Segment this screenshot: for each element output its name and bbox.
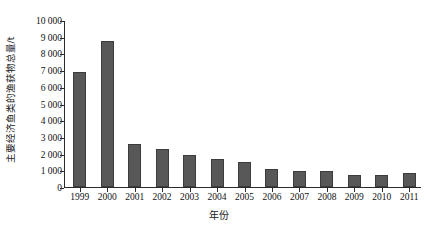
x-axis-tick-label: 2000 bbox=[98, 192, 117, 202]
plot-area bbox=[64, 21, 421, 188]
y-axis-tick-label: 4 000 bbox=[41, 116, 62, 126]
y-axis-tick-label: 3 000 bbox=[41, 133, 62, 143]
y-axis-tick-label: 7 000 bbox=[41, 66, 62, 76]
x-axis-tick-label: 2007 bbox=[290, 192, 309, 202]
bar-chart-figure: 主要经济鱼类的渔获物总量/t 01 0002 0003 0004 0005 00… bbox=[0, 0, 438, 241]
y-axis-tick-label: 6 000 bbox=[41, 83, 62, 93]
y-axis-tick-label: 9 000 bbox=[41, 33, 62, 43]
y-axis-tick-mark bbox=[60, 21, 64, 22]
x-axis-tick-label: 2010 bbox=[372, 192, 391, 202]
bar bbox=[403, 173, 416, 187]
y-axis-tick-mark bbox=[60, 138, 64, 139]
bar bbox=[211, 159, 224, 187]
x-axis-line bbox=[64, 187, 421, 188]
y-axis-line bbox=[64, 21, 65, 188]
bar bbox=[101, 41, 114, 187]
y-axis-tick-label: 1 000 bbox=[41, 166, 62, 176]
y-axis-tick-label: 2 000 bbox=[41, 150, 62, 160]
x-axis-tick-label: 2003 bbox=[180, 192, 199, 202]
y-axis-tick-mark bbox=[60, 38, 64, 39]
y-axis-tick-mark bbox=[60, 155, 64, 156]
x-axis-tick-label-group: 1999200020012002200320042005200620072008… bbox=[64, 192, 421, 208]
y-axis-tick-mark bbox=[60, 105, 64, 106]
bar bbox=[375, 175, 388, 187]
x-axis-tick-label: 1999 bbox=[70, 192, 89, 202]
y-axis-title-label: 主要经济鱼类的渔获物总量/t bbox=[3, 37, 17, 164]
x-axis-tick-label: 2006 bbox=[262, 192, 281, 202]
bar bbox=[73, 72, 86, 187]
y-axis-tick-mark bbox=[60, 71, 64, 72]
bar bbox=[293, 171, 306, 187]
x-axis-title: 年份 bbox=[0, 207, 438, 222]
x-axis-tick-label: 2004 bbox=[208, 192, 227, 202]
y-axis-tick-mark bbox=[60, 171, 64, 172]
x-axis-tick-label: 2011 bbox=[400, 192, 419, 202]
x-axis-tick-label: 2005 bbox=[235, 192, 254, 202]
x-axis-tick-label: 2001 bbox=[125, 192, 144, 202]
bar bbox=[238, 162, 251, 187]
x-axis-tick-label: 2008 bbox=[317, 192, 336, 202]
y-axis-tick-label-group: 01 0002 0003 0004 0005 0006 0007 0008 00… bbox=[18, 15, 64, 190]
y-axis-tick-mark bbox=[60, 88, 64, 89]
y-axis-tick-mark bbox=[60, 188, 64, 189]
bar bbox=[128, 144, 141, 187]
bar bbox=[156, 149, 169, 187]
bar bbox=[183, 155, 196, 187]
x-axis-tick-label: 2002 bbox=[153, 192, 172, 202]
y-axis-tick-mark bbox=[60, 54, 64, 55]
bar bbox=[348, 175, 361, 187]
y-axis-tick-mark bbox=[60, 121, 64, 122]
y-axis-tick-label: 5 000 bbox=[41, 100, 62, 110]
bar bbox=[265, 169, 278, 187]
y-axis-title: 主要经济鱼类的渔获物总量/t bbox=[0, 0, 20, 200]
bar bbox=[320, 171, 333, 187]
y-axis-tick-label: 8 000 bbox=[41, 49, 62, 59]
x-axis-tick-label: 2009 bbox=[345, 192, 364, 202]
y-axis-tick-label: 10 000 bbox=[36, 16, 62, 26]
